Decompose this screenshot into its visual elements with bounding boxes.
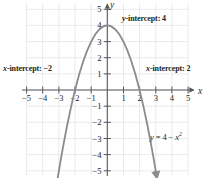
annotation-x-intercept-positive-text: -intercept: 2 — [150, 64, 191, 73]
annotation-equation: y = 4 − x2 — [150, 131, 182, 142]
x-tick-label: −3 — [54, 93, 63, 103]
x-tick-label: 1 — [121, 93, 125, 103]
y-tick-label: 1 — [97, 69, 101, 79]
y-axis-label: y — [109, 0, 115, 10]
y-tick-label: −3 — [92, 134, 101, 144]
equation-operator: = 4 − — [154, 132, 176, 142]
x-tick-labels: −5 −4 −3 −2 −1 1 2 3 4 5 — [22, 93, 190, 103]
annotation-y-intercept: y-intercept: 4 — [122, 14, 166, 23]
annotation-y-intercept-text: -intercept: 4 — [125, 14, 166, 23]
coordinate-plane: −5 −4 −3 −2 −1 1 2 3 4 5 5 4 3 2 1 −1 −2… — [0, 0, 211, 178]
y-tick-label: −2 — [92, 117, 101, 127]
x-axis-label: x — [197, 86, 203, 96]
y-tick-label: −5 — [92, 166, 101, 176]
y-tick-label: 3 — [97, 37, 101, 47]
y-tick-label: −4 — [92, 150, 102, 160]
x-axis — [22, 87, 194, 94]
y-tick-label: −1 — [92, 101, 101, 111]
graph-figure: −5 −4 −3 −2 −1 1 2 3 4 5 5 4 3 2 1 −1 −2… — [0, 0, 211, 178]
y-tick-label: 5 — [97, 4, 101, 14]
x-tick-label: 3 — [154, 93, 158, 103]
y-tick-label: 2 — [97, 53, 101, 63]
equation-exponent: 2 — [179, 131, 182, 137]
annotation-x-intercept-positive: x-intercept: 2 — [146, 64, 190, 73]
annotation-x-intercept-negative-text: -intercept: −2 — [7, 64, 52, 73]
x-tick-label: −5 — [22, 93, 31, 103]
x-tick-label: 4 — [170, 93, 175, 103]
x-tick-label: −4 — [38, 93, 48, 103]
x-tick-label: 5 — [186, 93, 190, 103]
annotation-x-intercept-negative: x-intercept: −2 — [3, 64, 52, 73]
